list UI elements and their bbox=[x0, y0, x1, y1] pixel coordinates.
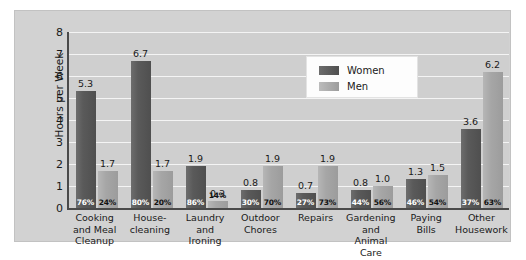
y-axis-tick-label: 0 bbox=[45, 202, 63, 215]
bar-value-label: 0.8 bbox=[353, 177, 368, 188]
bar-group: 3.637%6.263% bbox=[454, 32, 509, 208]
y-axis-ticks: 876543210 bbox=[45, 32, 63, 208]
y-axis-tick-label: 7 bbox=[45, 48, 63, 61]
bar-men[interactable]: 1.554% bbox=[428, 175, 448, 208]
bar-women[interactable]: 6.780% bbox=[131, 61, 151, 208]
x-axis-category-label: Repairs bbox=[288, 212, 343, 250]
bar-percent-label: 56% bbox=[374, 198, 391, 207]
x-axis-category-label: GardeningandAnimal Care bbox=[343, 212, 398, 250]
y-axis-tick-label: 6 bbox=[45, 70, 63, 83]
y-axis-tick-label: 5 bbox=[45, 92, 63, 105]
legend-item-men: Men bbox=[319, 78, 417, 94]
bar-men[interactable]: 1.720% bbox=[153, 171, 173, 208]
bar-women[interactable]: 3.637% bbox=[461, 129, 481, 208]
bar-value-label: 0.3 bbox=[210, 188, 225, 199]
bar-percent-label: 46% bbox=[407, 198, 424, 207]
chart-card: Hours per Week 876543210 5.376%1.724%6.7… bbox=[14, 10, 511, 242]
bar-percent-label: 63% bbox=[484, 198, 501, 207]
bar-percent-label: 76% bbox=[77, 198, 94, 207]
bar-women[interactable]: 0.727% bbox=[296, 193, 316, 208]
bar-wrapper: 0.830% bbox=[241, 32, 261, 208]
bar-group: 1.986%14%0.3 bbox=[179, 32, 234, 208]
bar-value-label: 3.6 bbox=[463, 116, 478, 127]
x-axis-category-label: OutdoorChores bbox=[233, 212, 288, 250]
legend-item-women: Women bbox=[319, 62, 417, 78]
bar-value-label: 1.9 bbox=[320, 153, 335, 164]
legend-swatch-men-icon bbox=[319, 82, 339, 91]
bar-wrapper: 1.720% bbox=[153, 32, 173, 208]
bar-wrapper: 6.780% bbox=[131, 32, 151, 208]
x-axis-categories: Cookingand MealCleanupHouse-cleaningLaun… bbox=[67, 212, 509, 250]
bar-percent-label: 73% bbox=[319, 198, 336, 207]
bar-wrapper: 3.637% bbox=[461, 32, 481, 208]
bar-percent-label: 27% bbox=[297, 198, 314, 207]
x-axis-category-label: House-cleaning bbox=[122, 212, 177, 250]
bar-percent-label: 37% bbox=[462, 198, 479, 207]
y-axis-tick-label: 2 bbox=[45, 158, 63, 171]
bar-group: 0.830%1.970% bbox=[234, 32, 289, 208]
bar-value-label: 1.5 bbox=[430, 162, 445, 173]
bar-value-label: 6.2 bbox=[485, 59, 500, 70]
bar-men[interactable]: 1.056% bbox=[373, 186, 393, 208]
x-axis-category-label: PayingBills bbox=[399, 212, 454, 250]
x-axis-category-label: LaundryandIroning bbox=[178, 212, 233, 250]
bar-percent-label: 30% bbox=[242, 198, 259, 207]
legend-swatch-women-icon bbox=[319, 66, 339, 75]
bar-percent-label: 24% bbox=[99, 198, 116, 207]
bar-group: 6.780%1.720% bbox=[124, 32, 179, 208]
bar-wrapper: 1.554% bbox=[428, 32, 448, 208]
legend: Women Men bbox=[306, 56, 418, 98]
bar-wrapper: 1.986% bbox=[186, 32, 206, 208]
bar-value-label: 1.9 bbox=[188, 153, 203, 164]
bar-wrapper: 14%0.3 bbox=[208, 32, 228, 208]
x-axis-category-label: Cookingand MealCleanup bbox=[67, 212, 122, 250]
bar-men[interactable]: 1.724% bbox=[98, 171, 118, 208]
bar-men[interactable]: 1.973% bbox=[318, 166, 338, 208]
bar-wrapper: 1.724% bbox=[98, 32, 118, 208]
bar-wrapper: 5.376% bbox=[76, 32, 96, 208]
bar-men[interactable]: 0.3 bbox=[208, 201, 228, 208]
bar-value-label: 5.3 bbox=[78, 78, 93, 89]
bar-value-label: 1.3 bbox=[408, 166, 423, 177]
bar-men[interactable]: 6.263% bbox=[483, 72, 503, 208]
y-axis-tick-label: 4 bbox=[45, 114, 63, 127]
y-axis-tick-label: 3 bbox=[45, 136, 63, 149]
x-axis-category-label: OtherHousework bbox=[454, 212, 509, 250]
bar-percent-label: 80% bbox=[132, 198, 149, 207]
bar-value-label: 0.7 bbox=[298, 180, 313, 191]
legend-label-women: Women bbox=[347, 65, 385, 76]
bar-women[interactable]: 1.346% bbox=[406, 179, 426, 208]
y-axis-tick-label: 1 bbox=[45, 180, 63, 193]
bar-percent-label: 54% bbox=[429, 198, 446, 207]
bar-women[interactable]: 1.986% bbox=[186, 166, 206, 208]
y-axis-tick-label: 8 bbox=[45, 26, 63, 39]
bar-value-label: 1.7 bbox=[155, 158, 170, 169]
bar-value-label: 6.7 bbox=[133, 48, 148, 59]
bar-value-label: 0.8 bbox=[243, 177, 258, 188]
chart-root: Hours per Week 876543210 5.376%1.724%6.7… bbox=[0, 0, 526, 260]
plot-area: 5.376%1.724%6.780%1.720%1.986%14%0.30.83… bbox=[67, 32, 509, 210]
legend-label-men: Men bbox=[347, 81, 368, 92]
bar-value-label: 1.9 bbox=[265, 153, 280, 164]
bar-groups: 5.376%1.724%6.780%1.720%1.986%14%0.30.83… bbox=[69, 32, 509, 208]
bar-percent-label: 86% bbox=[187, 198, 204, 207]
bar-wrapper: 6.263% bbox=[483, 32, 503, 208]
bar-percent-label: 70% bbox=[264, 198, 281, 207]
bar-percent-label: 20% bbox=[154, 198, 171, 207]
bar-men[interactable]: 1.970% bbox=[263, 166, 283, 208]
bar-women[interactable]: 0.844% bbox=[351, 190, 371, 208]
bar-women[interactable]: 5.376% bbox=[76, 91, 96, 208]
bar-wrapper: 1.970% bbox=[263, 32, 283, 208]
bar-women[interactable]: 0.830% bbox=[241, 190, 261, 208]
bar-percent-label: 44% bbox=[352, 198, 369, 207]
bar-value-label: 1.7 bbox=[100, 158, 115, 169]
bar-group: 5.376%1.724% bbox=[69, 32, 124, 208]
bar-value-label: 1.0 bbox=[375, 173, 390, 184]
